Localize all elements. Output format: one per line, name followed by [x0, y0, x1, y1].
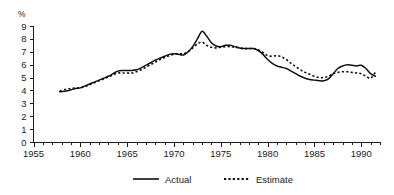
- legend-label-estimate: Estimate: [256, 174, 293, 185]
- y-tick-label: 0: [21, 137, 26, 148]
- y-tick-label: 1: [21, 124, 26, 135]
- y-tick-label: 6: [21, 59, 26, 70]
- x-axis-ticks: 19551960196519701975198019851990: [23, 142, 381, 159]
- y-tick-label: 2: [21, 111, 26, 122]
- y-axis-unit-text: %: [18, 9, 26, 19]
- y-tick-label: 7: [21, 46, 26, 57]
- line-chart: % 0123456789 195519601965197019751980198…: [0, 0, 394, 195]
- y-tick-label: 9: [21, 21, 26, 32]
- x-tick-label: 1970: [163, 148, 184, 159]
- x-tick-label: 1955: [23, 148, 44, 159]
- y-tick-label: 5: [21, 72, 26, 83]
- x-tick-label: 1975: [210, 148, 231, 159]
- x-tick-label: 1960: [70, 148, 91, 159]
- legend-label-actual: Actual: [165, 174, 191, 185]
- y-tick-label: 8: [21, 33, 26, 44]
- x-tick-label: 1985: [304, 148, 325, 159]
- chart-figure: % 0123456789 195519601965197019751980198…: [0, 0, 394, 195]
- chart-legend: Actual Estimate: [133, 174, 293, 185]
- y-tick-label: 4: [21, 85, 26, 96]
- x-tick-label: 1965: [117, 148, 138, 159]
- y-axis-unit-label: %: [18, 9, 26, 19]
- y-tick-label: 3: [21, 98, 26, 109]
- y-axis-ticks: 0123456789: [21, 21, 33, 148]
- series-line-estimate: [60, 42, 376, 91]
- series-line-actual: [60, 31, 376, 92]
- x-tick-label: 1980: [257, 148, 278, 159]
- x-tick-label: 1990: [351, 148, 372, 159]
